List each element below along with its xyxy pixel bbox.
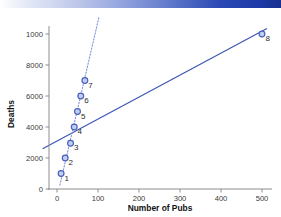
data-point-marker — [75, 109, 81, 115]
regression-line-all-points — [43, 29, 267, 149]
svg-text:0: 0 — [55, 194, 59, 203]
data-point-marker — [62, 155, 68, 161]
data-point-marker — [259, 31, 265, 37]
data-point-label: 4 — [78, 127, 83, 136]
svg-text:200: 200 — [133, 194, 146, 203]
data-point-marker — [68, 140, 74, 146]
data-point-label: 7 — [88, 81, 93, 90]
series-layer — [43, 18, 267, 185]
data-point-label: 1 — [65, 174, 70, 183]
svg-text:500: 500 — [256, 194, 269, 203]
data-point-label: 6 — [84, 96, 89, 105]
data-point-label: 2 — [69, 158, 74, 167]
svg-text:4000: 4000 — [26, 123, 43, 132]
svg-text:2000: 2000 — [26, 154, 43, 163]
chart-canvas: 12345678 0100200300400500020004000600080… — [0, 8, 281, 217]
data-point-label: 8 — [265, 34, 270, 43]
top-gradient-bar — [0, 0, 281, 8]
y-axis-title: Deaths — [6, 100, 16, 128]
data-point-marker — [78, 93, 84, 99]
svg-text:6000: 6000 — [26, 92, 43, 101]
svg-text:400: 400 — [215, 194, 228, 203]
svg-text:1000: 1000 — [26, 30, 43, 39]
data-point-marker — [71, 124, 77, 130]
scatter-plot-figure: 12345678 0100200300400500020004000600080… — [0, 8, 281, 217]
x-axis-title: Number of Pubs — [128, 203, 193, 213]
axis-layer: 0100200300400500020004000600080001000 — [26, 26, 272, 203]
data-point-label: 5 — [81, 112, 86, 121]
data-point-marker — [58, 171, 64, 177]
svg-text:8000: 8000 — [26, 61, 43, 70]
svg-text:0: 0 — [39, 185, 43, 194]
data-point-label: 3 — [74, 143, 79, 152]
svg-text:300: 300 — [174, 194, 187, 203]
data-point-marker — [82, 78, 88, 84]
svg-text:100: 100 — [92, 194, 105, 203]
